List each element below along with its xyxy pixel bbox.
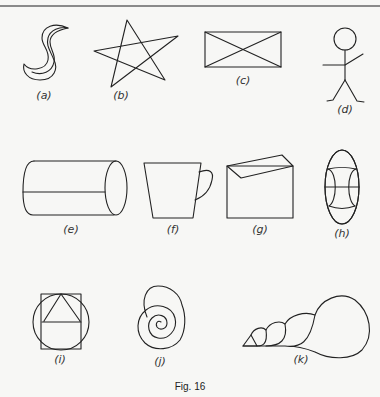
cup-icon <box>144 163 212 218</box>
rectangle-with-diagonals-icon <box>205 32 281 67</box>
label-e: (e) <box>63 223 78 236</box>
five-point-star-icon <box>94 20 178 87</box>
label-d: (d) <box>337 103 353 116</box>
oval-with-curved-lines-icon <box>325 150 359 224</box>
stick-figure-icon <box>323 28 364 102</box>
label-i: (i) <box>54 353 66 366</box>
figure-caption: Fig. 16 <box>175 381 206 392</box>
conical-shell-icon <box>243 296 369 358</box>
label-a: (a) <box>36 89 51 102</box>
spiral-snail-shell-icon <box>138 286 185 349</box>
label-b: (b) <box>113 89 129 102</box>
cylinder-icon <box>23 161 127 215</box>
label-c: (c) <box>236 74 251 87</box>
circle-square-triangle-icon <box>33 294 89 350</box>
label-k: (k) <box>294 353 309 366</box>
label-f: (f) <box>167 223 179 236</box>
label-g: (g) <box>252 223 268 236</box>
envelope-icon <box>227 155 293 218</box>
crescent-s-shape-icon <box>24 25 68 80</box>
label-j: (j) <box>154 355 166 368</box>
label-h: (h) <box>334 227 350 240</box>
